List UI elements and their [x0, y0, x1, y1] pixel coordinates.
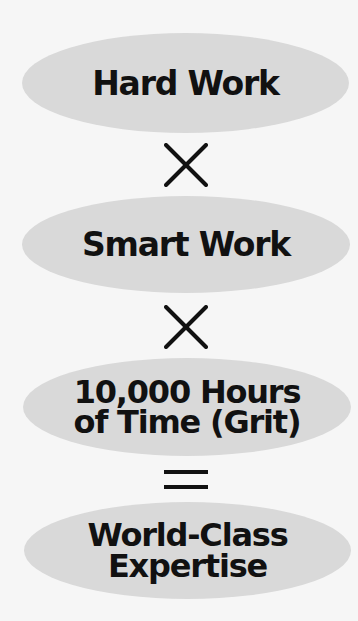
term-smart-work: Smart Work [22, 196, 350, 293]
multiply-icon [164, 143, 208, 187]
term-10000-hours-grit: 10,000 Hours of Time (Grit) [23, 358, 351, 456]
multiply-icon [164, 305, 208, 349]
diagram-canvas: Hard Work Smart Work 10,000 Hours of Tim… [0, 0, 358, 621]
term-label-line-1: World-Class [87, 520, 287, 550]
term-label: Hard Work [92, 67, 279, 100]
multiply-operator [0, 303, 358, 351]
term-label-line-2: Expertise [108, 551, 267, 581]
multiply-operator [0, 141, 358, 189]
equals-operator [0, 464, 358, 496]
term-label-line-2: of Time (Grit) [74, 407, 301, 437]
term-hard-work: Hard Work [22, 33, 349, 133]
equals-icon [164, 468, 208, 492]
term-world-class-expertise: World-Class Expertise [24, 502, 351, 599]
term-label: Smart Work [82, 228, 290, 261]
